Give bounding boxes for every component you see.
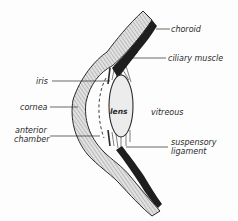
label-suspensory-ligament-line2: ligament xyxy=(171,147,207,156)
eye-cross-section-figure: choroid ciliary muscle iris cornea anter… xyxy=(0,0,238,221)
lens-shape xyxy=(109,75,133,137)
label-cornea: cornea xyxy=(20,103,48,112)
anterior-chamber-dashed-line xyxy=(99,78,106,138)
iris-upper xyxy=(108,68,110,84)
label-suspensory-ligament-line1: suspensory xyxy=(171,138,217,147)
label-iris: iris xyxy=(36,77,48,86)
label-vitreous: vitreous xyxy=(151,108,183,117)
label-ciliary-muscle: ciliary muscle xyxy=(168,54,223,63)
label-lens: lens xyxy=(110,107,128,116)
label-choroid: choroid xyxy=(171,25,202,34)
eye-diagram: choroid ciliary muscle iris cornea anter… xyxy=(0,0,238,221)
label-anterior-chamber-line1: anterior xyxy=(15,126,47,135)
iris-lower xyxy=(108,130,110,146)
label-anterior-chamber-line2: chamber xyxy=(14,135,50,144)
